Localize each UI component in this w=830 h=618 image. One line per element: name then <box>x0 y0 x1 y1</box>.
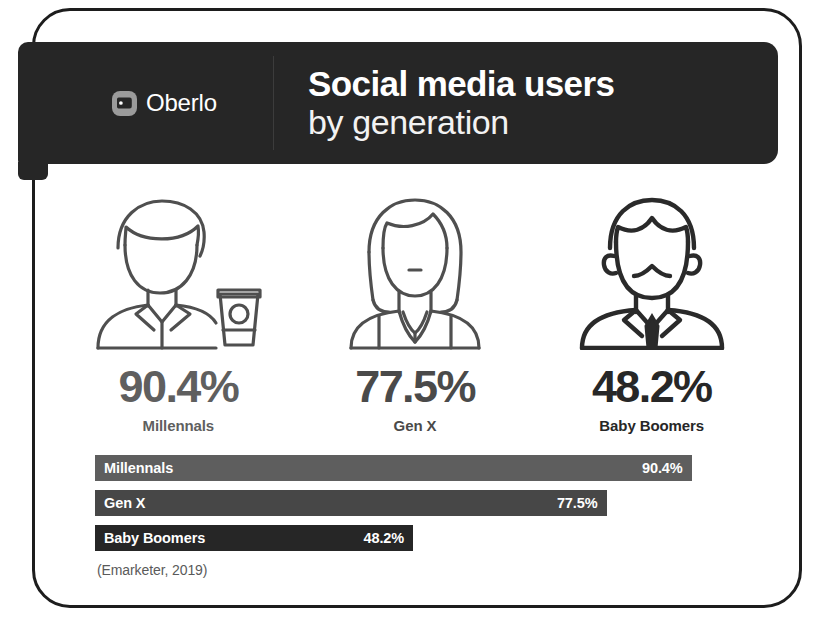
bar-label: Millennals <box>104 460 173 476</box>
stat-value: 90.4% <box>119 364 239 409</box>
bar-row: Millennals 90.4% <box>95 455 755 481</box>
infographic-canvas: Oberlo Social media users by generation <box>0 0 830 618</box>
bar-gen-x: Gen X 77.5% <box>95 490 607 516</box>
bar-value: 90.4% <box>642 460 683 476</box>
bar-millennals: Millennals 90.4% <box>95 455 692 481</box>
older-man-with-necktie-icon <box>566 185 738 350</box>
source-citation: (Emarketer, 2019) <box>97 562 207 578</box>
page-subtitle: by generation <box>308 103 614 141</box>
bar-label: Baby Boomers <box>104 530 205 546</box>
stat-label: Gen X <box>394 417 437 434</box>
generation-figures-row: 90.4% Millennals <box>60 185 770 445</box>
young-woman-with-long-hair-icon <box>329 185 501 350</box>
brand-lockup: Oberlo <box>112 89 217 117</box>
stat-value: 48.2% <box>592 364 712 409</box>
header-title-block: Social media users by generation <box>308 65 614 141</box>
generation-column-baby-boomers: 48.2% Baby Boomers <box>533 185 770 445</box>
stat-label: Baby Boomers <box>599 417 704 434</box>
stat-value: 77.5% <box>355 364 475 409</box>
generation-column-gen-x: 77.5% Gen X <box>297 185 534 445</box>
bar-chart: Millennals 90.4% Gen X 77.5% Baby Boomer… <box>95 455 755 560</box>
bar-row: Baby Boomers 48.2% <box>95 525 755 551</box>
oberlo-tag-logo-icon <box>112 91 137 116</box>
generation-column-millennals: 90.4% Millennals <box>60 185 297 445</box>
bar-row: Gen X 77.5% <box>95 490 755 516</box>
header-divider <box>273 56 274 150</box>
page-title: Social media users <box>308 65 614 103</box>
header-banner: Oberlo Social media users by generation <box>18 42 778 164</box>
bar-label: Gen X <box>104 495 145 511</box>
bar-value: 48.2% <box>363 530 404 546</box>
stat-label: Millennals <box>143 417 215 434</box>
young-man-with-coffee-cup-icon <box>92 185 264 350</box>
bar-value: 77.5% <box>557 495 598 511</box>
bar-baby-boomers: Baby Boomers 48.2% <box>95 525 413 551</box>
brand-name: Oberlo <box>146 89 217 117</box>
